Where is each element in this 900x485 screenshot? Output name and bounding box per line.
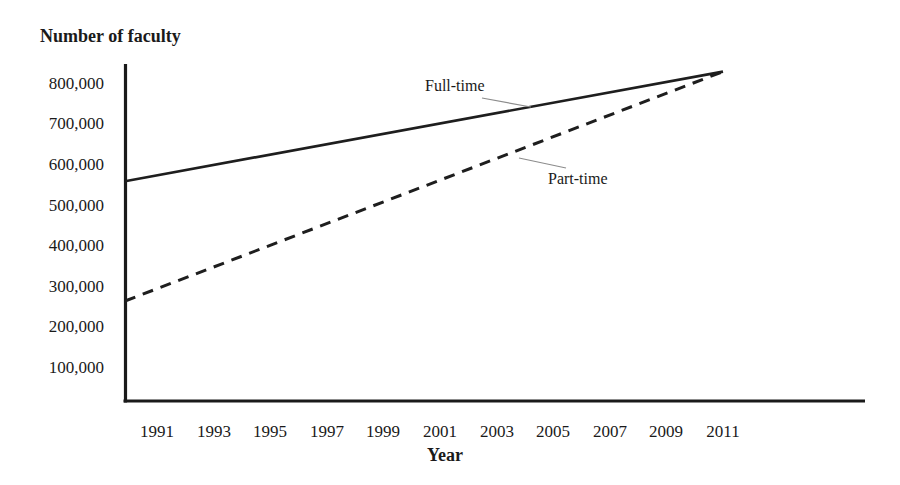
x-axis-tick-labels: 1991199319951997199920012003200520072009… — [0, 0, 900, 485]
x-tick-label: 2011 — [706, 421, 739, 443]
x-tick-label: 1991 — [140, 421, 174, 443]
y-tick-label: 400,000 — [0, 235, 104, 257]
part-time-leader-line — [519, 158, 566, 168]
y-tick-label: 100,000 — [0, 357, 104, 379]
faculty-line-chart-figure: Number of faculty 800,000700,000600,0005… — [0, 0, 900, 485]
part-time-series-label: Part-time — [548, 169, 608, 188]
y-axis-title: Number of faculty — [40, 26, 181, 47]
y-tick-label: 700,000 — [0, 113, 104, 135]
x-tick-label: 1993 — [197, 421, 231, 443]
x-tick-label: 1999 — [366, 421, 400, 443]
x-tick-label: 2003 — [480, 421, 514, 443]
y-tick-label: 300,000 — [0, 276, 104, 298]
full-time-leader-line — [482, 98, 531, 107]
x-tick-label: 2007 — [593, 421, 627, 443]
x-tick-label: 2009 — [649, 421, 683, 443]
x-tick-label: 1997 — [310, 421, 344, 443]
part-time-line — [125, 72, 723, 301]
full-time-line — [125, 72, 723, 182]
x-axis-title: Year — [427, 445, 463, 466]
chart-canvas — [0, 0, 900, 485]
y-tick-label: 800,000 — [0, 73, 104, 95]
x-tick-label: 2005 — [536, 421, 570, 443]
y-tick-label: 600,000 — [0, 154, 104, 176]
full-time-series-label: Full-time — [425, 76, 485, 95]
x-tick-label: 2001 — [423, 421, 457, 443]
y-tick-label: 200,000 — [0, 316, 104, 338]
y-tick-label: 500,000 — [0, 195, 104, 217]
y-axis-tick-labels: 800,000700,000600,000500,000400,000300,0… — [0, 0, 900, 485]
x-tick-label: 1995 — [253, 421, 287, 443]
